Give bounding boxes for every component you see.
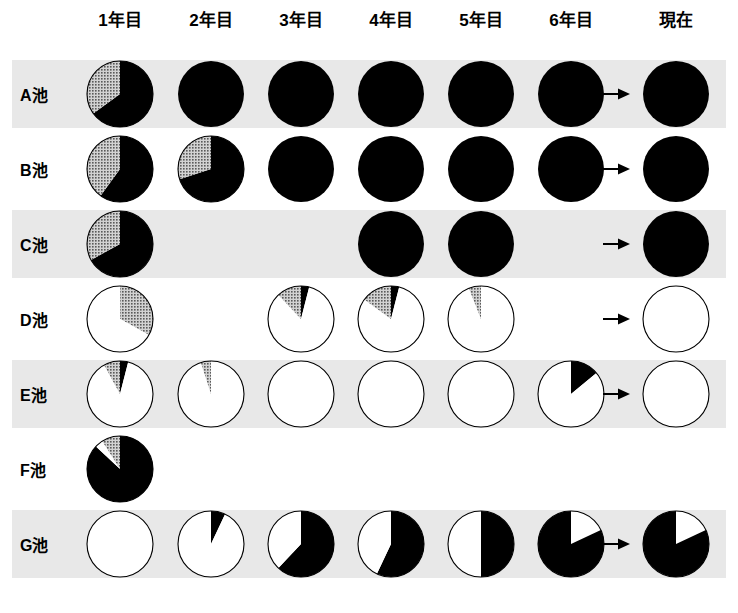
pie-pond-b-year5 (447, 135, 515, 203)
pie-pond-g-year2 (177, 510, 245, 578)
row-pond-f: F池 (12, 435, 726, 503)
pie-pond-a-year2 (177, 60, 245, 128)
pie-pond-g-year1 (86, 510, 154, 578)
pie-pond-g-year4 (357, 510, 425, 578)
pie-pond-c-now (642, 210, 710, 278)
row-label-pond-c: C池 (20, 232, 86, 256)
row-label-pond-f: F池 (20, 457, 86, 481)
right-arrow-icon (597, 384, 637, 404)
column-header-year1: 1年目 (75, 10, 165, 32)
row-label-pond-a: A池 (20, 82, 86, 106)
right-arrow-icon (597, 534, 637, 554)
row-pond-a: A池 (12, 60, 726, 128)
pie-pond-d-year3 (267, 285, 335, 353)
pie-pond-b-year6 (537, 135, 605, 203)
row-pond-g: G池 (12, 510, 726, 578)
pie-pond-a-now (642, 60, 710, 128)
pie-pond-a-year5 (447, 60, 515, 128)
column-header-year4: 4年目 (346, 10, 436, 32)
row-label-pond-e: E池 (20, 382, 86, 406)
pie-pond-d-now (642, 285, 710, 353)
pie-pond-e-year4 (357, 360, 425, 428)
row-pond-b: B池 (12, 135, 726, 203)
column-header-now: 現在 (631, 10, 721, 32)
row-label-pond-d: D池 (20, 307, 86, 331)
pie-pond-e-year5 (447, 360, 515, 428)
row-pond-e: E池 (12, 360, 726, 428)
pie-pond-g-year5 (447, 510, 515, 578)
pie-pond-d-year1 (86, 285, 154, 353)
right-arrow-icon (597, 234, 637, 254)
pie-pond-f-year1 (86, 435, 154, 503)
pie-pond-a-year1 (86, 60, 154, 128)
pie-pond-e-now (642, 360, 710, 428)
pie-pond-a-year3 (267, 60, 335, 128)
pie-pond-c-year1 (86, 210, 154, 278)
pie-pond-d-year5 (447, 285, 515, 353)
column-header-year5: 5年目 (436, 10, 526, 32)
pie-pond-b-year1 (86, 135, 154, 203)
pie-pond-g-now (642, 510, 710, 578)
row-pond-d: D池 (12, 285, 726, 353)
right-arrow-icon (597, 159, 637, 179)
row-label-pond-b: B池 (20, 157, 86, 181)
pie-pond-e-year6 (537, 360, 605, 428)
pie-pond-g-year6 (537, 510, 605, 578)
row-label-pond-g: G池 (20, 532, 86, 556)
pie-pond-c-year5 (447, 210, 515, 278)
pie-pond-b-now (642, 135, 710, 203)
right-arrow-icon (597, 309, 637, 329)
pie-pond-e-year2 (177, 360, 245, 428)
column-header-year6: 6年目 (526, 10, 616, 32)
pie-pond-g-year3 (267, 510, 335, 578)
column-header-row: 1年目2年目3年目4年目5年目6年目現在 (0, 0, 738, 52)
column-header-year2: 2年目 (166, 10, 256, 32)
column-header-year3: 3年目 (256, 10, 346, 32)
pie-pond-b-year2 (177, 135, 245, 203)
pie-pond-d-year4 (357, 285, 425, 353)
right-arrow-icon (597, 84, 637, 104)
pie-pond-a-year6 (537, 60, 605, 128)
pie-pond-c-year4 (357, 210, 425, 278)
pie-pond-b-year3 (267, 135, 335, 203)
pie-pond-e-year1 (86, 360, 154, 428)
row-pond-c: C池 (12, 210, 726, 278)
pie-pond-e-year3 (267, 360, 335, 428)
pie-pond-a-year4 (357, 60, 425, 128)
pond-pie-matrix-figure: 1年目2年目3年目4年目5年目6年目現在 A池B池C池D池E池F池G池 (0, 0, 738, 613)
pie-pond-b-year4 (357, 135, 425, 203)
